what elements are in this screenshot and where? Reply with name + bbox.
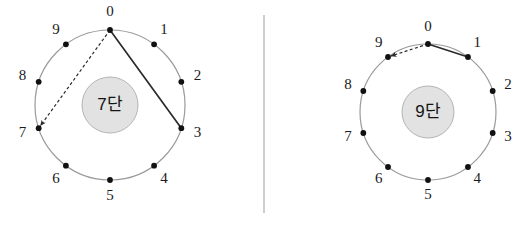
- node-dot-3[interactable]: [178, 125, 184, 131]
- node-label-8: 8: [344, 76, 352, 92]
- node-dot-6[interactable]: [63, 163, 69, 169]
- node-label-7: 7: [344, 128, 352, 144]
- node-label-3: 3: [194, 124, 202, 140]
- node-dot-7[interactable]: [360, 130, 366, 136]
- node-label-3: 3: [504, 128, 512, 144]
- node-dot-1[interactable]: [465, 54, 471, 60]
- node-label-6: 6: [52, 170, 60, 186]
- node-dot-5[interactable]: [107, 177, 113, 183]
- node-label-4: 4: [160, 170, 168, 186]
- node-label-1: 1: [474, 34, 482, 50]
- node-dot-9[interactable]: [385, 54, 391, 60]
- node-dot-4[interactable]: [151, 163, 157, 169]
- panels-group: 7단01234567899단0123456789: [19, 3, 512, 203]
- node-label-8: 8: [19, 67, 27, 83]
- node-label-6: 6: [375, 170, 383, 186]
- node-label-5: 5: [424, 186, 432, 202]
- node-dot-2[interactable]: [490, 88, 496, 94]
- figure-root: 7단01234567899단0123456789: [0, 0, 528, 227]
- node-dot-8[interactable]: [360, 88, 366, 94]
- hub-label: 9단: [415, 102, 440, 121]
- node-dot-4[interactable]: [465, 164, 471, 170]
- node-dot-9[interactable]: [63, 41, 69, 47]
- node-dot-0[interactable]: [107, 27, 113, 33]
- panel-left: 7단0123456789: [19, 3, 201, 203]
- node-dot-1[interactable]: [151, 41, 157, 47]
- node-label-4: 4: [474, 170, 482, 186]
- node-label-2: 2: [194, 67, 202, 83]
- node-dot-5[interactable]: [425, 177, 431, 183]
- hub-label: 7단: [97, 95, 122, 114]
- node-label-9: 9: [52, 21, 60, 37]
- panel-right: 9단0123456789: [344, 18, 511, 202]
- chord-0-to-9: [391, 44, 428, 56]
- node-label-0: 0: [106, 3, 114, 19]
- node-dot-7[interactable]: [36, 125, 42, 131]
- node-label-1: 1: [160, 21, 168, 37]
- node-label-2: 2: [504, 76, 512, 92]
- node-dot-8[interactable]: [36, 79, 42, 85]
- chord-0-to-1: [428, 44, 468, 57]
- node-dot-3[interactable]: [490, 130, 496, 136]
- node-dot-2[interactable]: [178, 79, 184, 85]
- node-label-5: 5: [106, 187, 114, 203]
- node-dot-0[interactable]: [425, 41, 431, 47]
- node-label-9: 9: [375, 34, 383, 50]
- node-label-0: 0: [424, 18, 432, 34]
- node-dot-6[interactable]: [385, 164, 391, 170]
- modular-circles-figure: 7단01234567899단0123456789: [0, 0, 528, 227]
- node-label-7: 7: [19, 124, 27, 140]
